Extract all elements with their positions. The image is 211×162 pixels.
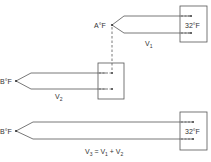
reference-label-3: 32°F [185,128,200,135]
voltage-label-v2: V2 [55,93,63,102]
terminal-dot [111,72,113,74]
junction-label-b2: B°F [0,128,12,135]
voltage-equation: V3 = V1 + V2 [85,148,124,157]
terminal-dot [192,121,194,123]
wire-3-top [16,122,192,131]
junction-label-b: B°F [0,78,12,85]
voltage-label-v1: V1 [145,40,153,49]
reference-box-2 [98,63,124,99]
reference-label-1: 32°F [185,22,200,29]
junction-dot-b2 [15,130,17,132]
terminal-dot [192,138,194,140]
circuit-3 [16,112,207,150]
wire-1-bottom [112,25,190,33]
circuit-2 [16,63,124,99]
wire-3-bottom [16,131,192,139]
terminal-dot [111,88,113,90]
terminal-dot [190,15,192,17]
junction-dot-b [15,80,17,82]
wire-1-top [112,16,190,25]
wire-2-top [16,73,106,81]
wire-2-bottom [16,81,106,89]
terminal-dot [190,32,192,34]
junction-label-a: A°F [94,22,106,29]
junction-dot-a [111,24,113,26]
thermocouple-diagram: A°F 32°F V1 B°F V2 B°F 32°F V3 = V1 + V2 [0,0,211,162]
